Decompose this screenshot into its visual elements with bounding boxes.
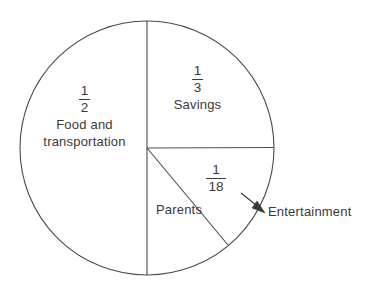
fraction-numerator: 1 (79, 84, 91, 98)
pie-chart-figure: 1 2 Food and transportation 1 3 Savings … (0, 0, 377, 292)
fraction-denominator: 3 (192, 81, 204, 95)
slice-label-parents: Parents (148, 202, 210, 217)
slice-label-food-and-transportation: 1 2 Food and transportation (22, 84, 147, 150)
slice-label-entertainment-fraction: 1 18 (196, 163, 236, 196)
slice-label-entertainment: Entertainment (268, 204, 368, 219)
fraction-numerator: 1 (192, 64, 204, 78)
slice-label-savings: 1 3 Savings (160, 64, 235, 113)
slice-label-text-parents: Parents (148, 202, 210, 217)
fraction-numerator: 1 (206, 163, 225, 177)
food-line-1: Food and (56, 117, 113, 132)
slice-label-text-savings: Savings (160, 97, 235, 112)
fraction-denominator: 18 (206, 180, 225, 194)
fraction-one-half: 1 2 (79, 84, 91, 115)
food-line-2: transportation (43, 134, 125, 149)
fraction-one-eighteenth: 1 18 (206, 163, 225, 194)
fraction-denominator: 2 (79, 101, 91, 115)
slice-label-text-food: Food and transportation (22, 117, 147, 150)
slice-label-text-entertainment: Entertainment (268, 204, 368, 219)
fraction-one-third: 1 3 (192, 64, 204, 95)
